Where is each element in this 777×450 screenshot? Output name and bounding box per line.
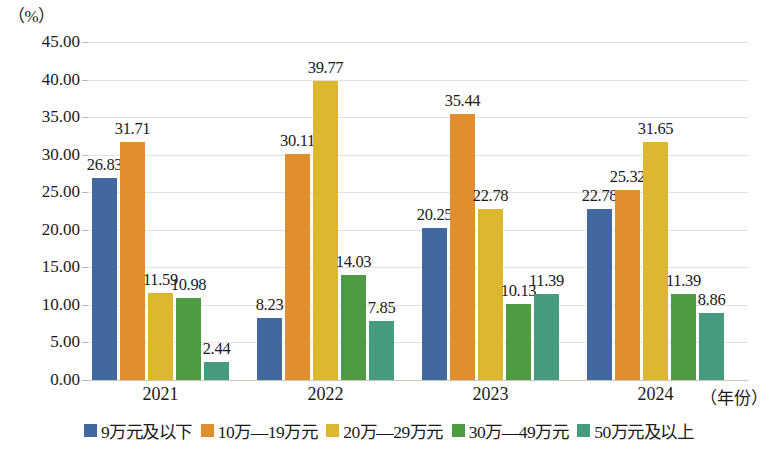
bar-value-label: 30.11 <box>280 131 315 151</box>
y-axis-tick-label: 20.00 <box>0 220 80 240</box>
legend-item[interactable]: 10万—19万元 <box>201 418 318 443</box>
x-axis-title: （年份） <box>700 384 768 409</box>
bar <box>478 209 503 380</box>
bar <box>176 298 201 380</box>
legend-swatch-icon <box>577 424 590 437</box>
bar-group: 8.2330.1139.7714.037.85 <box>253 42 418 380</box>
bar <box>615 190 640 380</box>
x-axis-tick-label: 2023 <box>473 384 509 405</box>
bar-value-label: 2.44 <box>203 339 231 359</box>
chart-legend: 9万元及以下10万—19万元20万—29万元30万—49万元50万元及以上 <box>0 418 777 443</box>
bar-value-label: 31.65 <box>638 119 674 139</box>
y-axis-tick-label: 25.00 <box>0 182 80 202</box>
y-axis-tick-label: 35.00 <box>0 107 80 127</box>
bar <box>148 293 173 380</box>
x-axis-tick-labels: 2021202220232024 <box>88 384 748 412</box>
bar-value-label: 14.03 <box>336 252 372 272</box>
legend-label: 20万—29万元 <box>343 418 443 443</box>
legend-item[interactable]: 20万—29万元 <box>326 418 443 443</box>
legend-swatch-icon <box>452 424 465 437</box>
y-axis-tick-labels: 0.005.0010.0015.0020.0025.0030.0035.0040… <box>0 42 84 380</box>
legend-swatch-icon <box>326 424 339 437</box>
legend-label: 30万—49万元 <box>469 418 569 443</box>
bar <box>341 275 366 380</box>
bar-value-label: 25.32 <box>610 167 646 187</box>
bar <box>204 362 229 380</box>
y-axis-tick-label: 5.00 <box>0 332 80 352</box>
bar <box>534 294 559 380</box>
legend-item[interactable]: 9万元及以下 <box>84 418 192 443</box>
legend-swatch-icon <box>201 424 214 437</box>
bar <box>369 321 394 380</box>
bar <box>450 114 475 380</box>
bar-value-label: 22.78 <box>582 186 618 206</box>
bar-value-label: 8.86 <box>698 290 726 310</box>
y-axis-tick-label: 15.00 <box>0 257 80 277</box>
bar-value-label: 10.98 <box>171 275 207 295</box>
x-axis-tick-label: 2021 <box>143 384 179 405</box>
bar <box>587 209 612 380</box>
bar-value-label: 7.85 <box>368 298 396 318</box>
bar-value-label: 22.78 <box>473 186 509 206</box>
plot-area: 26.8331.7111.5910.982.448.2330.1139.7714… <box>88 42 748 380</box>
bar-value-label: 11.39 <box>529 271 564 291</box>
bar-value-label: 11.39 <box>666 271 701 291</box>
bar <box>313 81 338 380</box>
bar-value-label: 35.44 <box>445 91 481 111</box>
bar <box>285 154 310 380</box>
y-axis-tick-label: 0.00 <box>0 370 80 390</box>
bar-value-label: 31.71 <box>115 119 151 139</box>
y-axis-unit-label: （%） <box>8 2 55 27</box>
bar <box>422 228 447 380</box>
legend-item[interactable]: 30万—49万元 <box>452 418 569 443</box>
bar <box>643 142 668 380</box>
legend-label: 50万元及以上 <box>594 418 693 443</box>
bar-value-label: 20.25 <box>417 205 453 225</box>
y-axis-tick-label: 10.00 <box>0 295 80 315</box>
y-axis-tick-label: 40.00 <box>0 70 80 90</box>
bar <box>92 178 117 380</box>
legend-label: 9万元及以下 <box>101 418 192 443</box>
bar <box>257 318 282 380</box>
legend-swatch-icon <box>84 424 97 437</box>
y-axis-tick-label: 45.00 <box>0 32 80 52</box>
axis-baseline <box>88 380 748 381</box>
bar-group: 26.8331.7111.5910.982.44 <box>88 42 253 380</box>
bar <box>120 142 145 380</box>
bar-value-label: 8.23 <box>256 295 284 315</box>
bar <box>699 313 724 380</box>
bar-group: 22.7825.3231.6511.398.86 <box>583 42 748 380</box>
bar <box>506 304 531 380</box>
x-axis-tick-label: 2022 <box>308 384 344 405</box>
x-axis-tick-label: 2024 <box>638 384 674 405</box>
y-axis-tick-label: 30.00 <box>0 145 80 165</box>
bar-value-label: 26.83 <box>87 155 123 175</box>
legend-label: 10万—19万元 <box>218 418 318 443</box>
legend-item[interactable]: 50万元及以上 <box>577 418 693 443</box>
bar <box>671 294 696 380</box>
bar-chart: （%） 0.005.0010.0015.0020.0025.0030.0035.… <box>0 0 777 450</box>
bar-value-label: 39.77 <box>308 58 344 78</box>
bar-group: 20.2535.4422.7810.1311.39 <box>418 42 583 380</box>
